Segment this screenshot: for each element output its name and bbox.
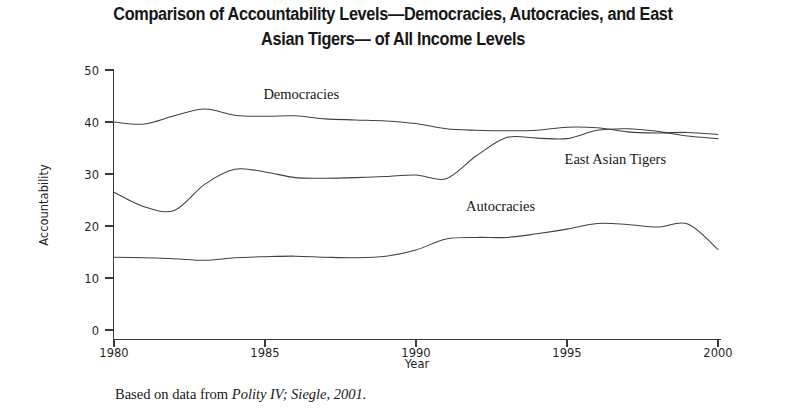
x-tick-label: 2000 (703, 346, 732, 360)
y-tick-label: 30 (84, 168, 99, 182)
x-axis-label: Year (404, 357, 430, 371)
y-axis-ticks: 01020304050 (84, 64, 114, 338)
y-tick-label: 10 (84, 272, 99, 286)
series-label-group: DemocraciesEast Asian TigersAutocracies (263, 86, 666, 215)
y-tick-label: 40 (84, 116, 99, 130)
series-line-east-asian-tigers (114, 129, 718, 212)
series-line-democracies (114, 109, 718, 134)
y-axis-label: Accountability (37, 164, 51, 246)
series-label-democracies: Democracies (263, 86, 339, 102)
plot-area: 01020304050 19801985199019952000 Democra… (0, 0, 786, 416)
figure-caption: Based on data from Polity IV; Siegle, 20… (115, 386, 366, 403)
series-group (114, 109, 718, 260)
chart-svg: 01020304050 19801985199019952000 Democra… (0, 0, 786, 416)
series-line-autocracies (114, 223, 718, 261)
caption-prefix: Based on data from (115, 386, 232, 402)
x-tick-label: 1995 (552, 346, 581, 360)
series-label-autocracies: Autocracies (466, 198, 536, 214)
caption-source: Polity IV; Siegle, 2001. (232, 386, 367, 402)
axis-group (114, 70, 722, 340)
y-tick-label: 20 (84, 220, 99, 234)
accountability-chart-figure: Comparison of Accountability Levels—Demo… (0, 0, 786, 416)
y-tick-label: 0 (92, 324, 99, 338)
y-tick-label: 50 (84, 64, 99, 78)
x-tick-label: 1980 (99, 346, 128, 360)
x-tick-label: 1985 (250, 346, 279, 360)
series-label-east-asian-tigers: East Asian Tigers (565, 151, 667, 167)
